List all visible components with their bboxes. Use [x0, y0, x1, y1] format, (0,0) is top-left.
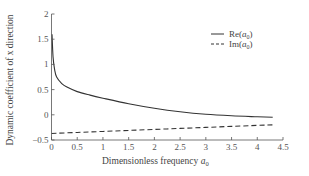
- x-axis-label: Dimensionless frequency a0: [102, 156, 209, 167]
- y-tick-label: 2: [44, 9, 49, 19]
- x-tick-label: 1.5: [123, 142, 135, 152]
- y-tick-label: 1: [44, 59, 49, 69]
- x-tick-label: 1: [101, 142, 106, 152]
- series-line-im: [52, 125, 273, 134]
- y-tick-label: 1.5: [37, 34, 49, 44]
- x-tick-label: 3: [204, 142, 209, 152]
- legend: Re(a0) Im(a0): [211, 29, 253, 50]
- y-tick-label: 0: [44, 110, 49, 120]
- x-tick-label: 4: [255, 142, 260, 152]
- x-tick-label: 2: [152, 142, 157, 152]
- x-tick-label: 0.5: [72, 142, 84, 152]
- x-tick-label: 3.5: [226, 142, 238, 152]
- legend-label-im: Im(a0): [229, 39, 253, 50]
- x-tick-label: 2.5: [174, 142, 186, 152]
- x-tick-label: 4.5: [277, 142, 289, 152]
- x-ticks: 00.511.522.533.544.5: [49, 137, 289, 152]
- y-axis-label: Dynamic coefficient of x direction: [5, 14, 15, 145]
- line-chart: 00.511.522.533.544.5 −0.500.511.52 Dimen…: [0, 0, 309, 176]
- plot-area: [52, 34, 273, 133]
- y-tick-label: −0.5: [32, 135, 49, 145]
- y-tick-label: 0.5: [37, 85, 49, 95]
- x-tick-label: 0: [49, 142, 54, 152]
